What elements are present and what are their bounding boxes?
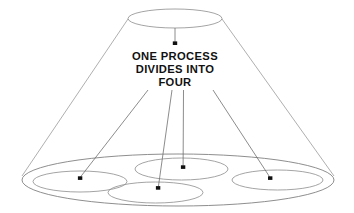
process-one-ellipse xyxy=(33,171,127,192)
arrow-to-process-four-head xyxy=(268,176,272,180)
arrow-to-process-three-line xyxy=(158,90,172,187)
arrow-to-process-one-line xyxy=(81,90,148,177)
single-process-ellipse xyxy=(128,9,222,28)
arrow-to-process-three-head xyxy=(156,186,160,190)
caption-line-1: ONE PROCESS xyxy=(132,50,218,62)
process-three-ellipse xyxy=(108,182,203,203)
cone-right-edge xyxy=(222,19,334,176)
process-two-ellipse xyxy=(135,158,228,180)
cone-left-edge xyxy=(22,19,128,176)
arrow-to-caption-head xyxy=(173,41,177,45)
arrow-to-process-one-head xyxy=(78,176,82,180)
caption-line-2: DIVIDES INTO xyxy=(136,63,215,75)
arrow-to-process-four-line xyxy=(213,90,270,177)
caption-line-3: FOUR xyxy=(158,76,191,88)
arrow-to-process-two-head xyxy=(181,165,185,169)
process-four-ellipse xyxy=(232,170,323,190)
diagram-canvas: ONE PROCESS DIVIDES INTO FOUR xyxy=(0,0,354,213)
process-division-diagram: ONE PROCESS DIVIDES INTO FOUR xyxy=(0,0,354,213)
